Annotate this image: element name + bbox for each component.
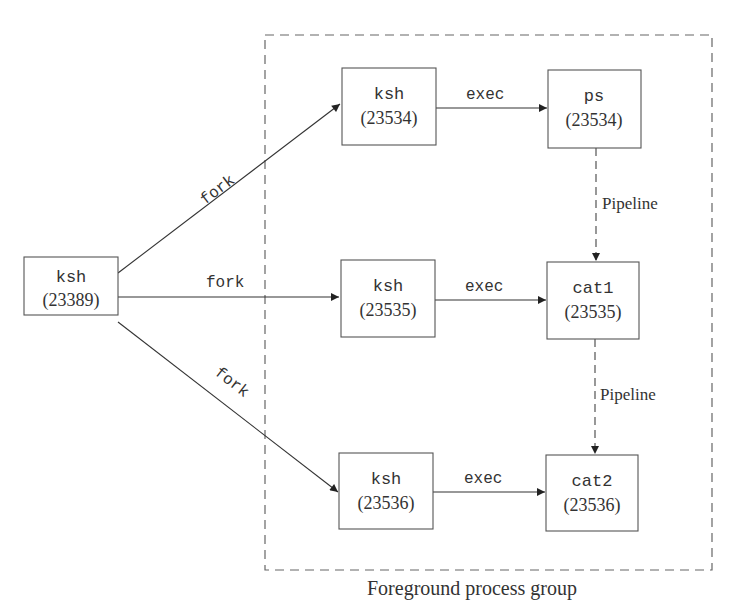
edge-label-fork-bottom: fork [211, 364, 252, 402]
edge-label-fork-middle: fork [206, 274, 244, 292]
process-node-cat2-23536: cat2 (23536) [546, 455, 638, 531]
fork-edge-top: fork [118, 104, 340, 273]
edge-label-fork-top: fork [197, 172, 239, 209]
process-node-ksh-23534: ksh (23534) [342, 68, 436, 145]
group-label: Foreground process group [367, 577, 577, 600]
node-pid: (23535) [565, 302, 622, 323]
fork-edge-bottom: fork [118, 322, 338, 492]
edge-label-pipeline-bottom: Pipeline [600, 385, 656, 404]
edge-label-exec-bottom: exec [464, 470, 502, 488]
exec-edge-middle: exec [435, 278, 546, 300]
exec-edge-bottom: exec [433, 470, 545, 492]
pipeline-edge-top: Pipeline [596, 148, 658, 261]
node-pid: (23534) [566, 110, 623, 131]
pipeline-edge-bottom: Pipeline [595, 339, 656, 454]
process-node-ps-23534: ps (23534) [548, 70, 641, 148]
process-node-ksh-23535: ksh (23535) [341, 260, 435, 337]
node-name: cat1 [573, 279, 614, 298]
node-pid: (23534) [361, 108, 418, 129]
node-name: cat2 [572, 472, 613, 491]
node-pid: (23536) [358, 493, 415, 514]
node-pid: (23389) [43, 290, 100, 311]
node-name: ksh [371, 470, 402, 489]
node-name: ksh [56, 268, 87, 287]
edge-label-pipeline-top: Pipeline [602, 194, 658, 213]
node-pid: (23535) [360, 300, 417, 321]
exec-edge-top: exec [436, 86, 547, 108]
process-node-cat1-23535: cat1 (23535) [547, 262, 639, 339]
process-node-ksh-23536: ksh (23536) [339, 453, 433, 529]
node-pid: (23536) [564, 495, 621, 516]
node-name: ksh [373, 277, 404, 296]
foreground-process-group-frame [265, 35, 712, 570]
node-name: ps [584, 87, 604, 106]
process-node-ksh-23389: ksh (23389) [24, 257, 118, 315]
edge-label-exec-top: exec [466, 86, 504, 104]
fork-edge-middle: fork [118, 274, 339, 297]
edge-label-exec-middle: exec [465, 278, 503, 296]
node-name: ksh [374, 85, 405, 104]
process-group-diagram: Foreground process group fork fork fork … [0, 0, 734, 605]
